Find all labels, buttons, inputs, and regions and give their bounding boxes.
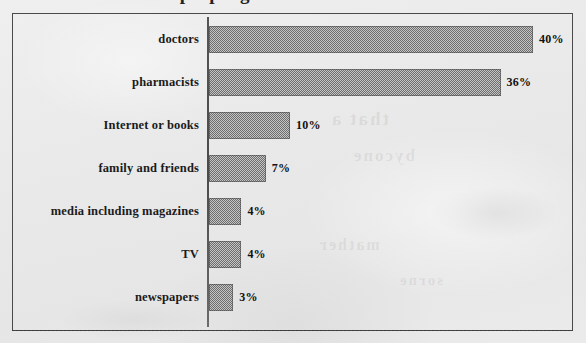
bar — [209, 26, 533, 53]
bar — [209, 112, 290, 139]
bar-row: newspapers3% — [12, 284, 573, 311]
bar-value-label: 3% — [239, 290, 257, 305]
bar-row: Internet or books10% — [12, 112, 573, 139]
bar-row: doctors40% — [12, 26, 573, 53]
bar — [209, 284, 233, 311]
bar — [209, 155, 266, 182]
cropped-chart-title-text: Where people get information about medic… — [118, 0, 515, 5]
chart-screenshot: that a bycone mather sorne Where people … — [0, 0, 586, 343]
bar-value-label: 4% — [247, 247, 265, 262]
category-label: Internet or books — [0, 118, 199, 133]
bar-row: family and friends7% — [12, 155, 573, 182]
category-label: family and friends — [0, 161, 199, 176]
category-label: media including magazines — [0, 204, 199, 219]
category-label: pharmacists — [0, 75, 199, 90]
bar-row: pharmacists36% — [12, 69, 573, 96]
category-label: newspapers — [0, 290, 199, 305]
bar-row: media including magazines4% — [12, 198, 573, 225]
bar-value-label: 40% — [539, 32, 564, 47]
bar-value-label: 10% — [296, 118, 321, 133]
bar-value-label: 7% — [272, 161, 290, 176]
bar — [209, 198, 241, 225]
bar-value-label: 4% — [247, 204, 265, 219]
category-label: doctors — [0, 32, 199, 47]
bar-value-label: 36% — [507, 75, 532, 90]
plot-area: doctors40%pharmacists36%Internet or book… — [12, 13, 573, 331]
bar-row: TV4% — [12, 241, 573, 268]
cropped-chart-title: Where people get information about medic… — [0, 0, 586, 9]
bar — [209, 69, 501, 96]
bar-rows: doctors40%pharmacists36%Internet or book… — [12, 13, 573, 331]
bar — [209, 241, 241, 268]
category-label: TV — [0, 247, 199, 262]
